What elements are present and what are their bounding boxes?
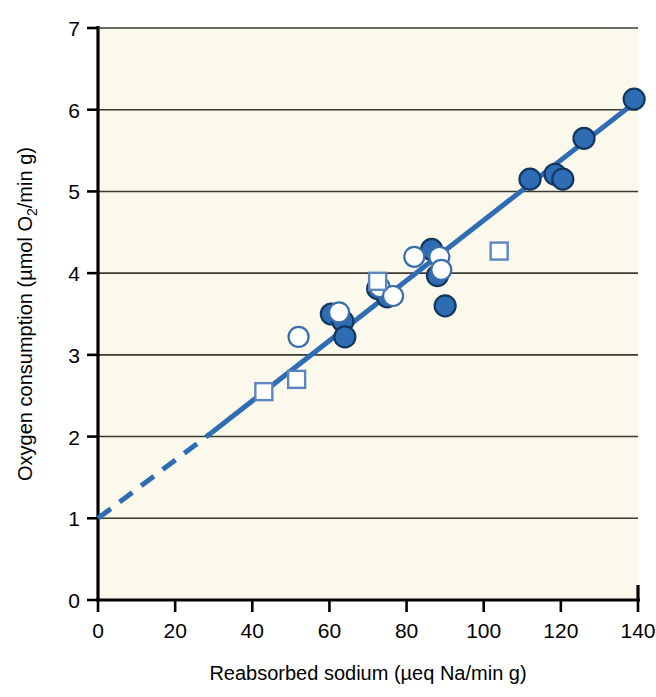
x-axis-ticks [98,600,638,612]
y-tick-label: 7 [68,17,80,40]
data-point-open-square [491,243,508,260]
x-tick-label: 60 [318,619,341,642]
data-point-open-square [369,273,386,290]
plot-background [98,28,638,600]
x-tick-label: 0 [92,619,104,642]
x-tick-label: 40 [241,619,264,642]
y-tick-label: 0 [68,589,80,612]
data-point-filled-circle [334,326,355,347]
x-tick-label: 120 [543,619,578,642]
x-tick-label: 80 [395,619,418,642]
x-tick-label: 140 [620,619,655,642]
y-axis-title: Oxygen consumption (µmol O2/min g) [14,147,40,481]
x-axis-tick-labels: 020406080100120140 [92,619,655,642]
data-point-filled-circle [520,169,541,190]
data-point-filled-circle [435,295,456,316]
scatter-plot: 01234567 020406080100120140 Reabsorbed s… [0,0,656,697]
data-point-open-circle [289,327,309,347]
data-point-open-square [255,383,272,400]
y-axis-tick-labels: 01234567 [68,17,80,612]
x-tick-label: 20 [163,619,186,642]
y-tick-label: 6 [68,99,80,122]
data-point-filled-circle [574,128,595,149]
y-tick-label: 5 [68,180,80,203]
x-tick-label: 100 [466,619,501,642]
data-point-filled-circle [552,169,573,190]
data-point-open-square [288,371,305,388]
y-tick-label: 3 [68,344,80,367]
data-point-filled-circle [624,89,645,110]
y-tick-label: 1 [68,507,80,530]
y-axis-ticks [87,28,98,600]
data-point-open-circle [431,260,451,280]
data-point-open-circle [404,247,424,267]
y-tick-label: 4 [68,262,80,285]
y-tick-label: 2 [68,426,80,449]
data-point-open-circle [329,302,349,322]
x-axis-title: Reabsorbed sodium (µeq Na/min g) [209,662,526,684]
chart-figure: 01234567 020406080100120140 Reabsorbed s… [0,0,656,697]
